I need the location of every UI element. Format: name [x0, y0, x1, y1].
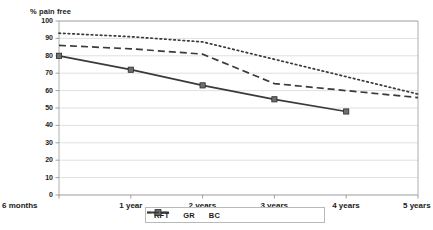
plot-area: [0, 0, 433, 230]
legend-item-gr: GR: [183, 211, 195, 220]
data-point-marker: [128, 67, 133, 72]
legend-label-bc: BC: [209, 211, 220, 220]
chart-legend: RFT GR BC: [145, 207, 325, 223]
legend-label-gr: GR: [183, 211, 195, 220]
data-point-marker: [200, 83, 205, 88]
data-point-marker: [272, 97, 277, 102]
series-line-rft: [59, 33, 418, 94]
data-point-marker: [56, 53, 61, 58]
chart-figure: % pain free 1009080706050403020100 6 mon…: [0, 0, 433, 230]
series-line-bc: [59, 45, 418, 97]
data-point-marker: [344, 109, 349, 114]
legend-swatch-bc: [146, 208, 170, 217]
legend-item-bc: BC: [209, 211, 220, 220]
